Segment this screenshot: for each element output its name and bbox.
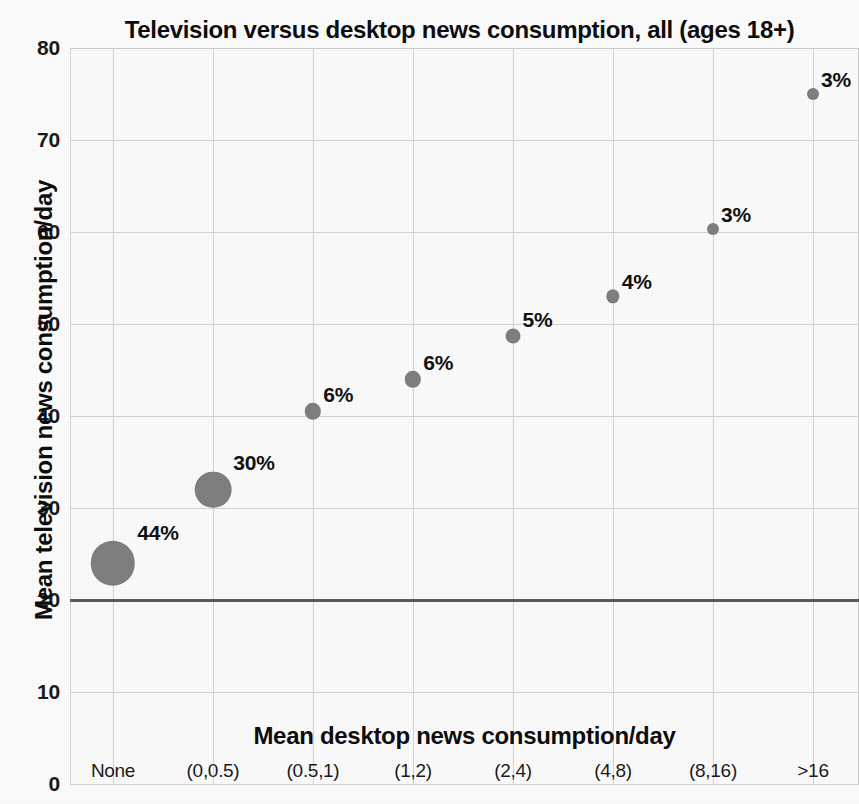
y-axis-title: Mean television news consumption/day	[30, 100, 58, 700]
x-axis-title: Mean desktop news consumption/day	[70, 722, 859, 750]
gridline-x-4	[513, 48, 514, 784]
data-point-label-3: 6%	[423, 351, 453, 375]
data-point-label-1: 30%	[233, 451, 274, 475]
data-point-6[interactable]	[707, 223, 719, 235]
gridline-y-40	[70, 416, 859, 417]
data-point-7[interactable]	[807, 88, 819, 100]
data-point-4[interactable]	[506, 328, 521, 343]
gridline-y-70	[70, 140, 859, 141]
gridline-x-1	[213, 48, 214, 784]
data-point-label-6: 3%	[721, 203, 751, 227]
gridline-y-60	[70, 232, 859, 233]
x-tick-7: >16	[797, 760, 828, 782]
gridline-y-30	[70, 508, 859, 509]
data-point-2[interactable]	[305, 403, 321, 419]
gridline-y-80	[70, 48, 859, 49]
data-point-label-4: 5%	[522, 308, 552, 332]
gridline-y-10	[70, 692, 859, 693]
gridline-x-0	[113, 48, 114, 784]
x-tick-0: None	[91, 760, 135, 782]
x-tick-5: (4,8)	[594, 760, 632, 782]
data-point-label-7: 3%	[821, 68, 851, 92]
plot-area: 44%30%6%6%5%4%3%3%	[70, 48, 859, 784]
gridline-y-50	[70, 324, 859, 325]
data-point-label-2: 6%	[323, 383, 353, 407]
x-tick-1: (0,0.5)	[187, 760, 240, 782]
gridline-x-7	[813, 48, 814, 784]
gridline-x-6	[713, 48, 714, 784]
reference-line-20	[70, 599, 859, 602]
x-axis-tick-labels: None(0,0.5)(0.5,1)(1,2)(2,4)(4,8)(8,16)>…	[0, 760, 859, 796]
data-point-1[interactable]	[195, 471, 232, 508]
data-point-5[interactable]	[606, 290, 619, 303]
x-tick-2: (0.5,1)	[287, 760, 340, 782]
chart-title: Television versus desktop news consumpti…	[0, 16, 859, 44]
data-point-label-5: 4%	[622, 270, 652, 294]
data-point-0[interactable]	[91, 541, 135, 585]
data-point-3[interactable]	[405, 371, 421, 387]
data-point-label-0: 44%	[137, 521, 178, 545]
x-tick-4: (2,4)	[494, 760, 532, 782]
gridline-x-3	[413, 48, 414, 784]
x-tick-6: (8,16)	[689, 760, 737, 782]
x-tick-3: (1,2)	[394, 760, 432, 782]
gridline-x-5	[613, 48, 614, 784]
bubble-chart: Television versus desktop news consumpti…	[0, 0, 859, 804]
